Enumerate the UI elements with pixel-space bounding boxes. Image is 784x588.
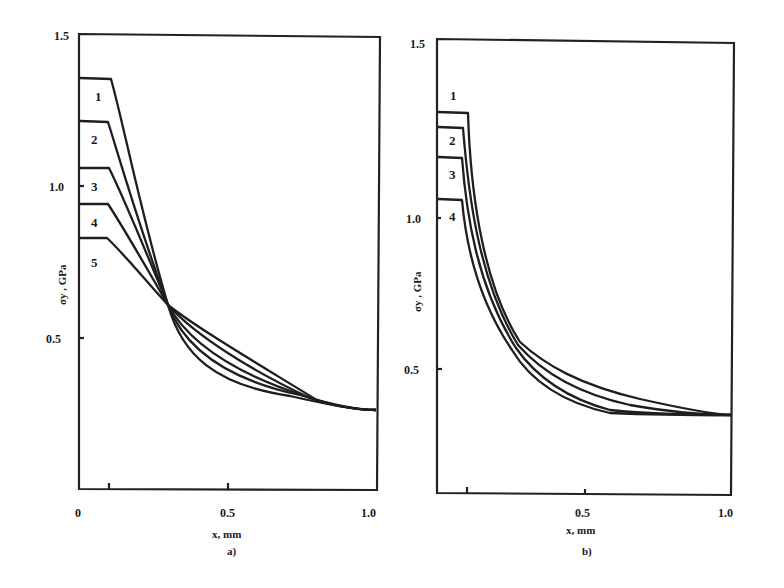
panel-a-ytick-label-1.5: 1.5	[54, 29, 69, 43]
panel-b: 1.5 1.0 0.5 0.5 1.0 x, mm b) σy , GPa 1 …	[404, 37, 734, 558]
panel-a-ytick-label-0.5: 0.5	[46, 332, 61, 346]
panel-a-caption: a)	[227, 545, 237, 558]
panel-b-curve-label-1: 1	[450, 88, 457, 103]
panel-a-curve-label-3: 3	[91, 179, 98, 194]
panel-b-curve-3	[438, 157, 731, 415]
panel-a-ylabel: σy , GPa	[56, 264, 68, 305]
panel-b-xlabel: x, mm	[566, 524, 595, 536]
panel-b-xtick-label-1.0: 1.0	[718, 506, 733, 520]
panel-a-curve-label-2: 2	[91, 132, 98, 147]
panel-b-ytick-label-0.5: 0.5	[404, 363, 419, 377]
panel-a: 1.5 1.0 0.5 0 0.5 1.0 x, mm a) σy , GPa …	[46, 29, 380, 558]
panel-a-ytick-label-1.0: 1.0	[49, 180, 64, 194]
panel-a-curve-label-5: 5	[91, 255, 98, 270]
panel-b-xtick-label-0.5: 0.5	[575, 506, 590, 520]
panel-b-curve-1	[438, 112, 731, 415]
panel-a-curve-5	[80, 238, 376, 410]
panel-b-curve-label-2: 2	[449, 133, 456, 148]
panel-a-curve-label-1: 1	[95, 89, 102, 104]
panel-a-xtick-label-1.0: 1.0	[361, 506, 376, 520]
panel-b-curves	[438, 112, 731, 415]
panel-b-curve-label-3: 3	[449, 167, 456, 182]
panel-a-xlabel: x, mm	[212, 528, 241, 540]
panel-b-caption: b)	[582, 545, 592, 558]
panel-a-curve-2	[80, 121, 376, 410]
panel-a-curve-1	[80, 78, 376, 410]
figure: 1.5 1.0 0.5 0 0.5 1.0 x, mm a) σy , GPa …	[0, 0, 784, 588]
panel-a-frame	[79, 34, 380, 490]
panel-a-xtick-label-0: 0	[75, 506, 81, 520]
panel-a-curve-3	[80, 168, 376, 410]
panel-b-ytick-label-1.0: 1.0	[406, 212, 421, 226]
panel-b-frame	[437, 39, 734, 495]
panel-a-xtick-label-0.5: 0.5	[220, 506, 235, 520]
panel-b-ytick-label-1.5: 1.5	[410, 37, 425, 51]
panel-b-ylabel: σy , GPa	[411, 271, 423, 312]
panel-b-curve-label-4: 4	[449, 209, 456, 224]
panel-a-curves	[80, 78, 376, 410]
panel-a-curve-label-4: 4	[91, 215, 98, 230]
